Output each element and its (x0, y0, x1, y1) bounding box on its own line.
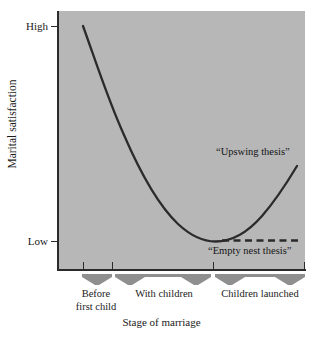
stage-label-before-line1: Before (62, 288, 130, 301)
bracket-with-children (115, 274, 211, 285)
stage-label-before-line2: first child (62, 301, 130, 314)
bracket-children-launched (215, 274, 305, 285)
bracket-before-first-child (82, 274, 112, 285)
stage-label-children-launched: Children launched (208, 288, 312, 301)
stage-label-before-first-child: Before first child (62, 288, 130, 313)
x-axis-title: Stage of marriage (0, 316, 323, 328)
chart-figure: High Low Marital satisfaction “Upswing t… (0, 0, 323, 343)
stage-label-with-children: With children (128, 288, 200, 301)
